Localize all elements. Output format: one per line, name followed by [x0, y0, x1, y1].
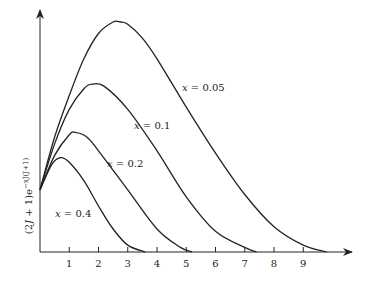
curve-label: x = 0.4 — [55, 208, 91, 219]
x-tick-label: 2 — [95, 258, 101, 269]
x-tick-label: 7 — [242, 258, 248, 269]
x-tick-label: 8 — [271, 258, 277, 269]
x-tick-label: 6 — [212, 258, 218, 269]
curve-label: x = 0.05 — [182, 82, 225, 93]
curve-0.1 — [40, 84, 256, 252]
x-tick-label: 9 — [300, 258, 306, 269]
curve-0.4 — [40, 158, 145, 252]
x-tick-label: 5 — [183, 258, 189, 269]
x-tick-label: 3 — [125, 258, 131, 269]
curve-labels: x = 0.05x = 0.1x = 0.2x = 0.4 — [55, 82, 225, 219]
curve-0.2 — [40, 132, 192, 252]
x-tick-label: 1 — [66, 258, 72, 269]
chart-canvas: 123456789 x = 0.05x = 0.1x = 0.2x = 0.4 — [0, 0, 372, 284]
curve-label: x = 0.2 — [107, 158, 143, 169]
y-axis-label: (2J + 1)e−xJ(J+1) — [22, 158, 34, 234]
x-tick-label: 4 — [154, 258, 160, 269]
curve-label: x = 0.1 — [134, 120, 170, 131]
